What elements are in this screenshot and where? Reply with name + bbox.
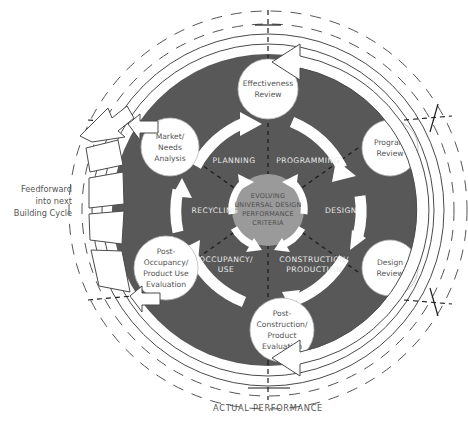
node-line-2: Analysis bbox=[154, 154, 185, 163]
sector-label-construction-line0: CONSTRUCTION/ bbox=[279, 255, 349, 264]
node-line-1: Review bbox=[376, 269, 403, 278]
core-line-0: EVOLVING bbox=[251, 192, 285, 200]
universal-design-cycle-diagram: EVOLVING UNIVERSAL DESIGN PERFORMANCE CR… bbox=[0, 0, 468, 425]
diagram-canvas: EVOLVING UNIVERSAL DESIGN PERFORMANCE CR… bbox=[0, 0, 468, 425]
feedforward-segment-2 bbox=[86, 140, 123, 172]
axis-tick-ne bbox=[404, 116, 452, 120]
node-line-1: Review bbox=[376, 149, 403, 158]
feedforward-segment-3 bbox=[89, 172, 124, 208]
node-line-1: Review bbox=[254, 90, 281, 99]
feedforward-line-0: Feedforward bbox=[21, 184, 72, 194]
node-line-2: Product Use bbox=[143, 269, 189, 278]
node-circle bbox=[134, 236, 198, 300]
core-line-2: PERFORMANCE bbox=[242, 210, 294, 218]
node-line-1: Needs bbox=[158, 143, 182, 152]
arrow-arc-design bbox=[358, 196, 361, 236]
node-line-1: Construction/ bbox=[257, 320, 308, 329]
feedforward-segment-4 bbox=[89, 211, 124, 244]
sector-label-planning: PLANNING bbox=[213, 156, 256, 165]
axis-tick-sw bbox=[88, 296, 132, 300]
node-line-0: Post- bbox=[273, 309, 292, 318]
core-line-3: CRITERIA bbox=[252, 219, 284, 227]
node-post-occupancy[interactable]: Post- Occupancy/ Product Use Evaluation bbox=[134, 236, 198, 300]
sector-label-construction-line1: PRODUCTION bbox=[286, 265, 342, 274]
axis-tick-se bbox=[404, 300, 452, 304]
node-line-2: Product bbox=[268, 331, 297, 340]
node-line-0: Effectiveness bbox=[243, 79, 294, 88]
core-line-1: UNIVERSAL DESIGN bbox=[234, 201, 301, 209]
node-line-0: Design bbox=[377, 258, 403, 267]
feedforward-line-2: Building Cycle bbox=[14, 208, 72, 218]
feedforward-arrowhead bbox=[80, 106, 134, 142]
node-line-3: Evaluation bbox=[146, 280, 186, 289]
feedforward-line-1: into next bbox=[36, 196, 73, 206]
node-line-0: Post- bbox=[157, 247, 176, 256]
actual-performance-label: ACTUAL PERFORMANCE bbox=[213, 403, 323, 413]
sector-label-occupancy-line1: USE bbox=[218, 265, 235, 274]
sector-label-recycling: RECYCLING bbox=[192, 206, 239, 215]
feedforward-label: Feedforward into next Building Cycle bbox=[14, 184, 73, 218]
node-line-0: Market/ bbox=[156, 132, 185, 141]
node-line-1: Occupancy/ bbox=[144, 258, 189, 267]
sector-label-design: DESIGN bbox=[325, 206, 357, 215]
sector-label-occupancy-line0: OCCUPANCY/ bbox=[199, 255, 253, 264]
core-group: EVOLVING UNIVERSAL DESIGN PERFORMANCE CR… bbox=[232, 174, 304, 252]
sector-label-programming: PROGRAMMING bbox=[276, 156, 340, 165]
